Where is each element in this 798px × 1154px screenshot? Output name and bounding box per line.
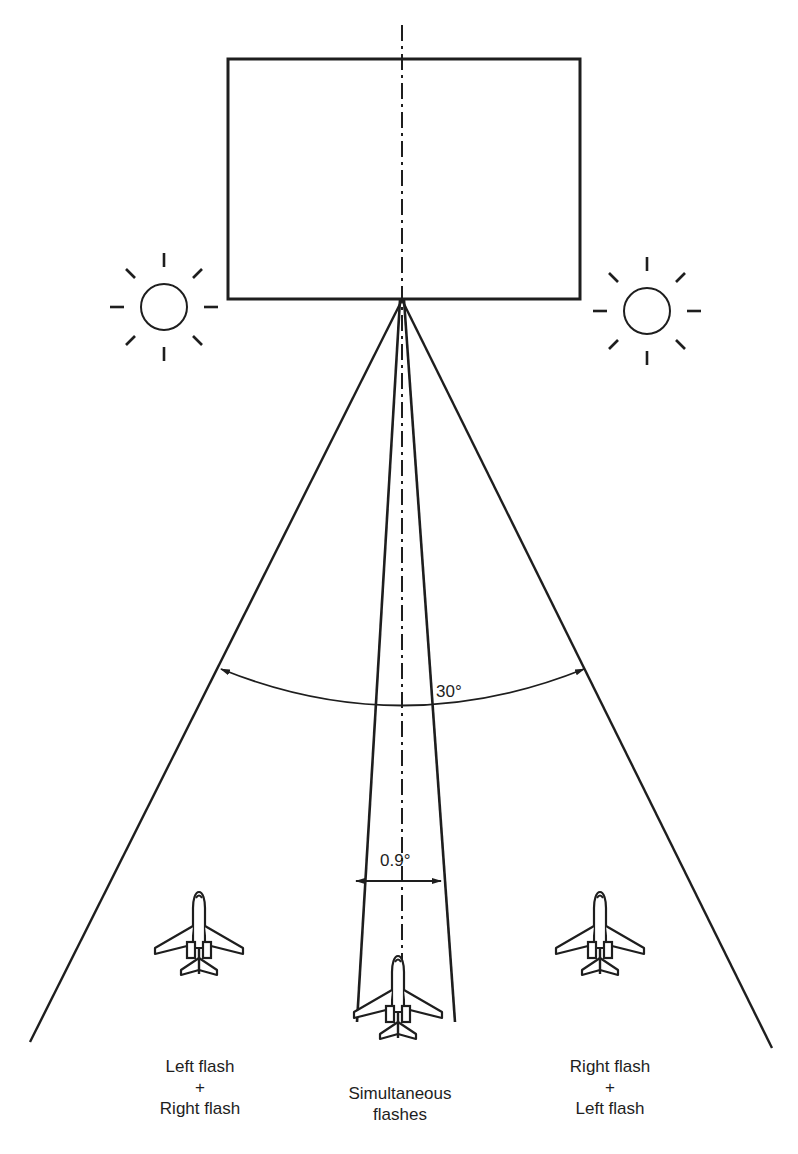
- sun-icon-left: [110, 253, 218, 361]
- wide-beam-left-edge: [30, 300, 402, 1042]
- caption-left-line-1: Left flash: [166, 1056, 235, 1077]
- caption-right-line-1: Right flash: [570, 1056, 650, 1077]
- aircraft-icon-left: [155, 892, 243, 975]
- narrow-beam-left-edge: [357, 300, 400, 1022]
- diagram-canvas: [0, 0, 798, 1154]
- sun-icon-right: [593, 257, 701, 365]
- aircraft-icon-center: [354, 956, 442, 1039]
- caption-left-line-3: Right flash: [160, 1098, 240, 1119]
- caption-left-line-2: +: [195, 1077, 205, 1098]
- caption-center-line-1: Simultaneous: [348, 1083, 451, 1104]
- narrow-beam-right-edge: [404, 300, 455, 1022]
- aircraft-icon-right: [556, 892, 644, 975]
- caption-right-line-2: +: [605, 1077, 615, 1098]
- caption-left: Left flash + Right flash: [130, 1056, 270, 1119]
- caption-right-line-3: Left flash: [576, 1098, 645, 1119]
- target-box: [228, 59, 580, 299]
- caption-center-line-2: flashes: [373, 1104, 427, 1125]
- wide-angle-label: 30°: [436, 681, 462, 702]
- caption-center: Simultaneous flashes: [330, 1083, 470, 1125]
- caption-right: Right flash + Left flash: [540, 1056, 680, 1119]
- narrow-angle-label: 0.9°: [380, 850, 410, 871]
